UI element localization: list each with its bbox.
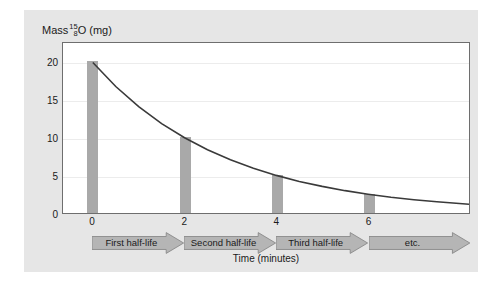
y-axis-tick-label: 15 — [28, 94, 58, 105]
half-life-arrows: First half-lifeSecond half-lifeThird hal… — [62, 232, 470, 254]
y-axis-units: (mg) — [89, 24, 112, 36]
plot-area — [63, 43, 469, 213]
x-axis-tick-label: 4 — [264, 216, 288, 227]
x-axis-tick-labels: 0246 — [62, 216, 470, 232]
y-axis-tick-label: 10 — [28, 132, 58, 143]
y-axis-tick-label: 20 — [28, 56, 58, 67]
half-life-arrow-label: First half-life — [92, 232, 171, 254]
y-axis-title: Mass158O (mg) — [42, 24, 112, 38]
element-symbol: O — [78, 24, 87, 36]
figure-panel: Mass158O (mg) 05101520 0246 First half-l… — [24, 10, 478, 272]
y-axis-title-text: Mass — [42, 24, 68, 36]
y-axis-tick-label: 5 — [28, 170, 58, 181]
half-life-arrow-label: Second half-life — [184, 232, 263, 254]
y-axis-tick-label: 0 — [28, 209, 58, 220]
x-axis-tick-label: 2 — [172, 216, 196, 227]
x-axis-tick-label: 0 — [80, 216, 104, 227]
decay-curve — [63, 43, 469, 213]
plot-frame — [62, 42, 470, 214]
isotope-notation: 158 — [69, 24, 77, 38]
atomic-number: 8 — [69, 31, 77, 38]
y-axis-tick-labels: 05101520 — [24, 42, 58, 214]
x-axis-title: Time (minutes) — [62, 253, 470, 264]
half-life-arrow-label: etc. — [369, 232, 457, 254]
half-life-arrow-label: Third half-life — [276, 232, 355, 254]
x-axis-tick-label: 6 — [357, 216, 381, 227]
